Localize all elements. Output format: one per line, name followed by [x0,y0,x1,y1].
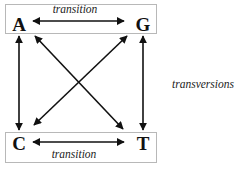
bottom-transition-label: transition [52,149,97,161]
node-t: T [137,134,150,153]
node-g: G [136,15,151,34]
top-transition-label: transition [53,4,98,16]
node-a: A [12,15,26,34]
node-c: C [12,134,26,153]
transversions-label: transversions [172,79,234,91]
